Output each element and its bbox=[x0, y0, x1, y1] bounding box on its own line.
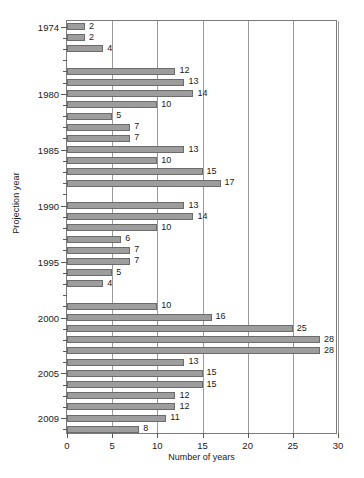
bar-value-label: 28 bbox=[324, 334, 334, 345]
bar bbox=[67, 135, 130, 142]
bar bbox=[67, 280, 103, 287]
bar-value-label: 12 bbox=[179, 390, 189, 401]
y-axis-tick-major bbox=[61, 418, 67, 419]
bar-value-label: 5 bbox=[116, 267, 121, 278]
bar-row: 7 bbox=[67, 122, 338, 134]
y-axis-tick bbox=[63, 273, 67, 274]
bar-row: 10 bbox=[67, 301, 338, 313]
x-axis-tick bbox=[338, 433, 339, 438]
bar-value-label: 7 bbox=[134, 132, 139, 143]
bar-row: 14 bbox=[67, 88, 338, 100]
bar bbox=[67, 34, 85, 41]
y-axis-tick bbox=[63, 183, 67, 184]
bar-value-label: 11 bbox=[170, 412, 179, 423]
y-axis-tick bbox=[63, 329, 67, 330]
y-axis-tick bbox=[63, 228, 67, 229]
bar-row: 15 bbox=[67, 379, 338, 391]
y-axis-tick bbox=[63, 362, 67, 363]
bar-row: 17 bbox=[67, 178, 338, 190]
bar bbox=[67, 336, 320, 343]
y-axis-tick-label: 2005 bbox=[38, 368, 59, 379]
y-axis-tick-label: 1990 bbox=[38, 200, 59, 211]
bar-value-label: 10 bbox=[161, 155, 171, 166]
bar-row: 15 bbox=[67, 368, 338, 380]
bar-row: 5 bbox=[67, 111, 338, 123]
y-axis-tick bbox=[63, 172, 67, 173]
bar bbox=[67, 370, 203, 377]
bar-value-label: 10 bbox=[161, 99, 171, 110]
bar-value-label: 16 bbox=[216, 311, 226, 322]
y-axis-tick bbox=[63, 116, 67, 117]
bar bbox=[67, 202, 184, 209]
bar-row: 28 bbox=[67, 345, 338, 357]
y-axis-tick-label: 1974 bbox=[38, 21, 59, 32]
bar-value-label: 7 bbox=[134, 244, 139, 255]
bar-row bbox=[67, 189, 338, 201]
bar bbox=[67, 392, 175, 399]
y-axis-tick bbox=[63, 396, 67, 397]
bar-row: 12 bbox=[67, 390, 338, 402]
bar bbox=[67, 213, 193, 220]
bar bbox=[67, 45, 103, 52]
y-axis-tick bbox=[63, 429, 67, 430]
bar-row: 13 bbox=[67, 144, 338, 156]
bar-value-label: 10 bbox=[161, 222, 171, 233]
bar-row: 10 bbox=[67, 155, 338, 167]
bar bbox=[67, 168, 203, 175]
bar bbox=[67, 359, 184, 366]
bar-row: 7 bbox=[67, 256, 338, 268]
x-axis-tick bbox=[248, 433, 249, 438]
x-axis-tick bbox=[112, 433, 113, 438]
bar bbox=[67, 124, 130, 131]
x-axis-tick-label: 25 bbox=[288, 440, 299, 451]
bar-row: 28 bbox=[67, 334, 338, 346]
bar-row: 15 bbox=[67, 166, 338, 178]
bar bbox=[67, 269, 112, 276]
bar-value-label: 15 bbox=[207, 379, 217, 390]
bar-value-label: 13 bbox=[188, 76, 198, 87]
x-axis-tick-label: 20 bbox=[242, 440, 253, 451]
y-axis-tick bbox=[63, 194, 67, 195]
bar bbox=[67, 347, 320, 354]
x-axis-title: Number of years bbox=[66, 452, 337, 462]
y-axis-tick-major bbox=[61, 94, 67, 95]
y-axis-tick-major bbox=[61, 206, 67, 207]
y-axis-tick-label: 2000 bbox=[38, 312, 59, 323]
bar-row bbox=[67, 290, 338, 302]
bar-value-label: 10 bbox=[161, 300, 171, 311]
y-axis-tick-major bbox=[61, 262, 67, 263]
y-axis-tick-major bbox=[61, 373, 67, 374]
x-axis-tick bbox=[293, 433, 294, 438]
bar-row: 7 bbox=[67, 245, 338, 257]
x-axis-tick-label: 10 bbox=[152, 440, 163, 451]
x-axis-tick bbox=[67, 433, 68, 438]
plot-area: 2241213141057713101517131410677541016252… bbox=[66, 20, 337, 434]
bar bbox=[67, 403, 175, 410]
y-axis-tick bbox=[63, 407, 67, 408]
bar bbox=[67, 236, 121, 243]
bar-value-label: 17 bbox=[225, 177, 235, 188]
x-axis-tick-label: 30 bbox=[333, 440, 344, 451]
bar bbox=[67, 247, 130, 254]
bar-row: 11 bbox=[67, 413, 338, 425]
bar-chart: Projection year 224121314105771310151713… bbox=[0, 0, 364, 478]
bar bbox=[67, 157, 157, 164]
y-axis-tick bbox=[63, 239, 67, 240]
y-axis-tick bbox=[63, 385, 67, 386]
bar bbox=[67, 90, 193, 97]
bar-row: 25 bbox=[67, 323, 338, 335]
bar-value-label: 28 bbox=[324, 345, 334, 356]
bar-value-label: 6 bbox=[125, 233, 130, 244]
x-axis-tick bbox=[203, 433, 204, 438]
bar-row: 12 bbox=[67, 66, 338, 78]
y-axis-tick-label: 1980 bbox=[38, 88, 59, 99]
bar-row: 10 bbox=[67, 222, 338, 234]
bar-value-label: 7 bbox=[134, 121, 139, 132]
bar bbox=[67, 23, 85, 30]
bar-row: 13 bbox=[67, 357, 338, 369]
bar-value-label: 5 bbox=[116, 110, 121, 121]
bar-value-label: 12 bbox=[179, 65, 189, 76]
bar-value-label: 12 bbox=[179, 401, 189, 412]
bar-row: 7 bbox=[67, 133, 338, 145]
bar bbox=[67, 381, 203, 388]
